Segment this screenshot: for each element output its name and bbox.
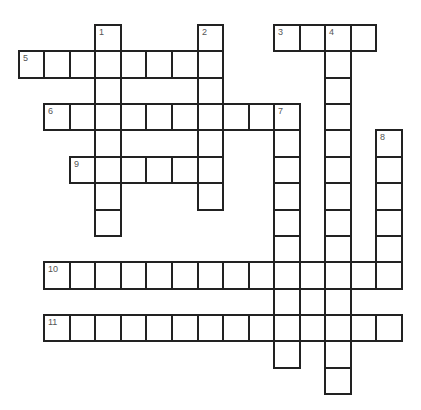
crossword-cell[interactable] bbox=[197, 261, 224, 290]
crossword-cell[interactable] bbox=[69, 314, 96, 342]
crossword-cell[interactable] bbox=[299, 314, 326, 342]
letter-input[interactable] bbox=[122, 105, 145, 129]
crossword-cell[interactable] bbox=[375, 314, 403, 342]
letter-input[interactable] bbox=[122, 263, 145, 288]
crossword-cell[interactable] bbox=[248, 314, 275, 342]
letter-input[interactable] bbox=[173, 316, 197, 340]
letter-input[interactable] bbox=[275, 184, 299, 209]
letter-input[interactable] bbox=[377, 316, 401, 340]
crossword-cell[interactable] bbox=[94, 314, 122, 342]
letter-input[interactable] bbox=[326, 369, 350, 393]
crossword-cell[interactable] bbox=[94, 129, 122, 158]
letter-input[interactable] bbox=[96, 131, 120, 156]
crossword-cell[interactable] bbox=[324, 261, 352, 290]
letter-input[interactable] bbox=[377, 211, 401, 235]
crossword-cell[interactable] bbox=[69, 261, 96, 290]
letter-input[interactable] bbox=[224, 105, 248, 129]
crossword-cell[interactable]: 3 bbox=[273, 24, 301, 52]
crossword-cell[interactable] bbox=[197, 182, 224, 211]
letter-input[interactable] bbox=[96, 26, 120, 50]
letter-input[interactable] bbox=[326, 263, 350, 288]
letter-input[interactable] bbox=[326, 131, 350, 156]
crossword-cell[interactable] bbox=[324, 103, 352, 131]
crossword-cell[interactable] bbox=[273, 288, 301, 316]
letter-input[interactable] bbox=[147, 316, 171, 340]
letter-input[interactable] bbox=[326, 184, 350, 209]
letter-input[interactable] bbox=[326, 105, 350, 129]
letter-input[interactable] bbox=[224, 316, 248, 340]
letter-input[interactable] bbox=[71, 316, 94, 340]
crossword-cell[interactable] bbox=[350, 24, 377, 52]
letter-input[interactable] bbox=[275, 342, 299, 367]
letter-input[interactable] bbox=[71, 263, 94, 288]
letter-input[interactable] bbox=[326, 290, 350, 314]
crossword-cell[interactable] bbox=[273, 182, 301, 211]
crossword-cell[interactable] bbox=[324, 50, 352, 79]
crossword-cell[interactable] bbox=[375, 209, 403, 237]
letter-input[interactable] bbox=[96, 211, 120, 235]
crossword-cell[interactable]: 4 bbox=[324, 24, 352, 52]
crossword-cell[interactable]: 10 bbox=[43, 261, 71, 290]
letter-input[interactable] bbox=[352, 263, 375, 288]
crossword-cell[interactable] bbox=[375, 156, 403, 184]
letter-input[interactable] bbox=[301, 263, 324, 288]
crossword-cell[interactable] bbox=[197, 156, 224, 184]
letter-input[interactable] bbox=[71, 158, 94, 182]
letter-input[interactable] bbox=[275, 263, 299, 288]
letter-input[interactable] bbox=[147, 105, 171, 129]
crossword-cell[interactable] bbox=[120, 156, 147, 184]
crossword-cell[interactable] bbox=[324, 288, 352, 316]
crossword-cell[interactable] bbox=[273, 235, 301, 263]
crossword-cell[interactable] bbox=[145, 261, 173, 290]
letter-input[interactable] bbox=[326, 158, 350, 182]
letter-input[interactable] bbox=[199, 316, 222, 340]
letter-input[interactable] bbox=[173, 263, 197, 288]
letter-input[interactable] bbox=[326, 26, 350, 50]
crossword-cell[interactable] bbox=[69, 103, 96, 131]
crossword-cell[interactable] bbox=[222, 103, 250, 131]
crossword-cell[interactable] bbox=[350, 261, 377, 290]
letter-input[interactable] bbox=[71, 52, 94, 77]
crossword-cell[interactable] bbox=[145, 314, 173, 342]
crossword-cell[interactable] bbox=[94, 156, 122, 184]
crossword-cell[interactable] bbox=[273, 129, 301, 158]
letter-input[interactable] bbox=[326, 237, 350, 261]
letter-input[interactable] bbox=[275, 290, 299, 314]
crossword-cell[interactable]: 1 bbox=[94, 24, 122, 52]
crossword-cell[interactable] bbox=[69, 50, 96, 79]
letter-input[interactable] bbox=[275, 158, 299, 182]
crossword-cell[interactable] bbox=[324, 77, 352, 105]
letter-input[interactable] bbox=[250, 263, 273, 288]
crossword-cell[interactable] bbox=[120, 314, 147, 342]
crossword-cell[interactable] bbox=[324, 340, 352, 369]
crossword-cell[interactable] bbox=[145, 50, 173, 79]
crossword-cell[interactable] bbox=[222, 314, 250, 342]
crossword-cell[interactable] bbox=[145, 156, 173, 184]
letter-input[interactable] bbox=[377, 131, 401, 156]
letter-input[interactable] bbox=[96, 263, 120, 288]
crossword-cell[interactable]: 7 bbox=[273, 103, 301, 131]
letter-input[interactable] bbox=[199, 131, 222, 156]
letter-input[interactable] bbox=[326, 52, 350, 77]
letter-input[interactable] bbox=[275, 211, 299, 235]
letter-input[interactable] bbox=[173, 52, 197, 77]
crossword-cell[interactable] bbox=[324, 209, 352, 237]
letter-input[interactable] bbox=[224, 263, 248, 288]
crossword-cell[interactable] bbox=[43, 50, 71, 79]
letter-input[interactable] bbox=[173, 105, 197, 129]
crossword-cell[interactable] bbox=[324, 182, 352, 211]
crossword-cell[interactable] bbox=[222, 261, 250, 290]
letter-input[interactable] bbox=[96, 105, 120, 129]
crossword-cell[interactable] bbox=[273, 209, 301, 237]
letter-input[interactable] bbox=[275, 105, 299, 129]
crossword-cell[interactable] bbox=[197, 50, 224, 79]
letter-input[interactable] bbox=[147, 158, 171, 182]
letter-input[interactable] bbox=[250, 316, 273, 340]
letter-input[interactable] bbox=[122, 316, 145, 340]
letter-input[interactable] bbox=[326, 342, 350, 367]
crossword-cell[interactable] bbox=[299, 261, 326, 290]
crossword-cell[interactable] bbox=[324, 235, 352, 263]
crossword-cell[interactable] bbox=[94, 103, 122, 131]
letter-input[interactable] bbox=[326, 316, 350, 340]
crossword-cell[interactable] bbox=[324, 367, 352, 395]
